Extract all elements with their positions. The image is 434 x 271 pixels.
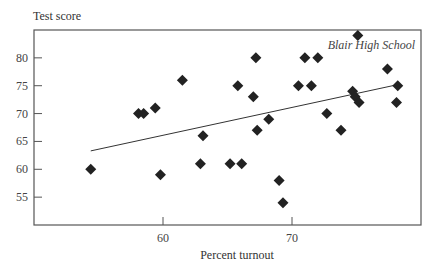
data-points — [85, 30, 403, 208]
diamond-marker — [150, 103, 161, 114]
diamond-marker — [195, 158, 206, 169]
diamond-marker — [232, 80, 243, 91]
x-axis-label: Percent turnout — [0, 248, 434, 263]
diamond-marker — [293, 80, 304, 91]
diamond-marker — [225, 158, 236, 169]
diamond-marker — [382, 64, 393, 75]
y-axis-label: Test score — [33, 9, 81, 24]
y-tick-label: 75 — [16, 79, 28, 93]
x-tick-label: 60 — [157, 231, 169, 245]
diamond-marker — [177, 75, 188, 86]
diamond-marker — [312, 52, 323, 63]
y-tick-label: 65 — [16, 134, 28, 148]
y-tick-label: 60 — [16, 162, 28, 176]
y-axis-ticks: 556065707580 — [16, 51, 42, 204]
x-axis-ticks: 6070 — [157, 217, 298, 245]
diamond-marker — [306, 80, 317, 91]
diamond-marker — [248, 91, 259, 102]
diamond-marker — [85, 164, 96, 175]
x-tick-label: 70 — [286, 231, 298, 245]
y-tick-label: 70 — [16, 107, 28, 121]
diamond-marker — [155, 169, 166, 180]
diamond-marker — [277, 197, 288, 208]
y-tick-label: 55 — [16, 190, 28, 204]
diamond-marker — [392, 80, 403, 91]
diamond-marker — [263, 114, 274, 125]
diamond-marker — [252, 125, 263, 136]
diamond-marker — [274, 175, 285, 186]
y-tick-label: 80 — [16, 51, 28, 65]
diamond-marker — [321, 108, 332, 119]
chart-annotation: Blair High School — [328, 38, 415, 53]
diamond-marker — [236, 158, 247, 169]
plot-frame — [34, 30, 421, 225]
diamond-marker — [336, 125, 347, 136]
diamond-marker — [197, 130, 208, 141]
diamond-marker — [391, 97, 402, 108]
diamond-marker — [250, 52, 261, 63]
diamond-marker — [299, 52, 310, 63]
